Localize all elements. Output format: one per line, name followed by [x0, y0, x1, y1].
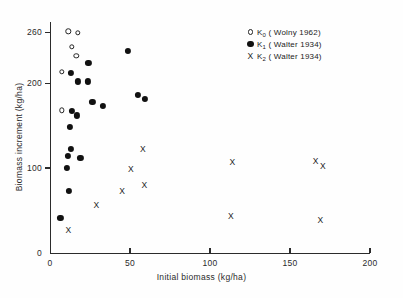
filled-circle-marker	[85, 78, 91, 84]
open-circle-marker	[59, 108, 64, 113]
filled-circle-marker	[68, 70, 74, 76]
legend-item-k0: K0 ( Wolny 1962)	[244, 26, 394, 38]
x-axis-title: Initial biomass (kg/ha)	[0, 272, 403, 282]
x-axis-tick-label: 0	[35, 258, 65, 268]
cross-marker: X	[92, 200, 100, 210]
legend-symbol	[244, 29, 257, 34]
x-axis-tick-label: 150	[275, 258, 305, 268]
y-axis-line	[50, 22, 51, 254]
filled-circle-marker	[57, 215, 63, 221]
filled-circle-marker	[85, 60, 91, 66]
x-axis-tick	[369, 248, 370, 253]
legend-item-k1: K1 ( Walter 1934)	[244, 38, 394, 50]
filled-circle-marker	[74, 112, 80, 118]
cross-marker: X	[319, 161, 327, 171]
legend-item-label: K2 ( Walter 1934)	[257, 52, 322, 61]
filled-circle-marker	[67, 124, 73, 130]
filled-circle-marker	[247, 41, 253, 47]
filled-circle-marker	[77, 155, 83, 161]
cross-marker: X	[140, 180, 148, 190]
x-axis-tick	[289, 248, 290, 253]
x-axis-tick-label: 200	[355, 258, 385, 268]
open-circle-marker	[75, 30, 80, 35]
filled-circle-marker	[65, 153, 71, 159]
open-circle-marker	[59, 69, 64, 74]
filled-circle-marker	[66, 188, 72, 194]
x-axis-line	[50, 253, 370, 254]
scatter-chart-figure: 0100200260050100150200 XXXXXXXXXXX Initi…	[0, 0, 403, 298]
filled-circle-marker	[125, 48, 131, 54]
legend-symbol	[244, 41, 257, 47]
open-circle-marker	[248, 29, 253, 34]
filled-circle-marker	[135, 92, 141, 98]
legend-item-label: K0 ( Wolny 1962)	[257, 28, 321, 37]
cross-marker: X	[127, 164, 135, 174]
y-axis-tick-label: 0	[16, 248, 42, 258]
filled-circle-marker	[68, 145, 74, 151]
filled-circle-marker	[142, 96, 148, 102]
legend-symbol: X	[244, 51, 257, 61]
open-circle-marker	[69, 44, 74, 49]
filled-circle-marker	[64, 165, 70, 171]
chart-legend: K0 ( Wolny 1962)K1 ( Walter 1934)XK2 ( W…	[244, 26, 394, 62]
legend-item-label: K1 ( Walter 1934)	[257, 40, 322, 49]
legend-item-k2: XK2 ( Walter 1934)	[244, 50, 394, 62]
cross-marker: X	[247, 51, 255, 61]
y-axis-tick	[45, 83, 50, 84]
y-axis-tick-label: 260	[16, 27, 42, 37]
x-axis-tick-label: 50	[115, 258, 145, 268]
cross-marker: X	[139, 144, 147, 154]
filled-circle-marker	[89, 99, 95, 105]
x-axis-tick-label: 100	[195, 258, 225, 268]
y-axis-tick	[45, 32, 50, 33]
cross-marker: X	[64, 225, 72, 235]
filled-circle-marker	[100, 103, 106, 109]
open-circle-marker	[74, 53, 79, 58]
open-circle-marker	[66, 29, 71, 34]
cross-marker: X	[227, 211, 235, 221]
filled-circle-marker	[75, 78, 81, 84]
x-axis-tick	[209, 248, 210, 253]
x-axis-tick	[129, 248, 130, 253]
cross-marker: X	[118, 186, 126, 196]
cross-marker: X	[228, 157, 236, 167]
y-axis-tick	[45, 167, 50, 168]
cross-marker: X	[316, 215, 324, 225]
y-axis-title: Biomass increment (kg/ha)	[14, 52, 24, 222]
